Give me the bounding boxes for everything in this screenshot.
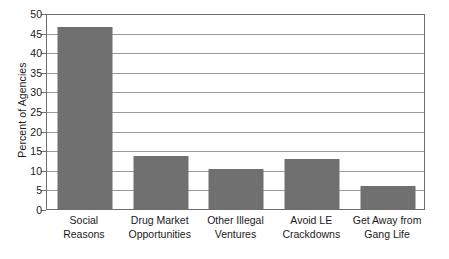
bar[interactable] <box>209 169 264 209</box>
y-axis-tick-label: 0 <box>20 204 42 217</box>
y-axis-tick-label: 5 <box>20 184 42 197</box>
y-axis-tick-label: 10 <box>20 165 42 178</box>
y-axis-tick-label: 20 <box>20 126 42 139</box>
y-axis-tick-label: 50 <box>20 8 42 21</box>
bar-slot <box>199 15 275 209</box>
x-axis-label-line: Other Illegal <box>198 213 274 227</box>
x-axis-label: Drug MarketOpportunities <box>122 213 198 241</box>
x-axis-label-line: Get Away from <box>349 213 425 227</box>
y-axis-tick-label: 35 <box>20 67 42 80</box>
x-axis-label: Avoid LECrackdowns <box>273 213 349 241</box>
x-axis-label-line: Avoid LE <box>273 213 349 227</box>
x-axis-category-labels: SocialReasonsDrug MarketOpportunitiesOth… <box>46 213 425 257</box>
x-axis-label-line: Reasons <box>46 227 122 241</box>
bar[interactable] <box>285 159 340 209</box>
bar-slot <box>47 15 123 209</box>
x-axis-label: SocialReasons <box>46 213 122 241</box>
x-axis-label-line: Opportunities <box>122 227 198 241</box>
x-axis-label: Other IllegalVentures <box>198 213 274 241</box>
y-axis-tick-label: 15 <box>20 145 42 158</box>
y-axis-tick-label: 45 <box>20 28 42 41</box>
x-axis-label-line: Drug Market <box>122 213 198 227</box>
bar-slot <box>274 15 350 209</box>
y-axis-tick-label: 30 <box>20 86 42 99</box>
x-axis-label: Get Away fromGang Life <box>349 213 425 241</box>
y-axis-tick-label: 40 <box>20 47 42 60</box>
y-axis-tick-label: 25 <box>20 106 42 119</box>
bar-slot <box>350 15 426 209</box>
x-axis-label-line: Gang Life <box>349 227 425 241</box>
x-axis-label-line: Social <box>46 213 122 227</box>
bar-slot <box>123 15 199 209</box>
y-axis-tick-labels: 05101520253035404550 <box>14 14 42 210</box>
plot-area <box>46 14 425 210</box>
x-axis-label-line: Ventures <box>198 227 274 241</box>
bar[interactable] <box>361 186 416 209</box>
bar[interactable] <box>57 27 112 209</box>
x-axis-label-line: Crackdowns <box>273 227 349 241</box>
bar-chart: Percent of Agencies 05101520253035404550… <box>0 0 449 259</box>
bar[interactable] <box>133 156 188 209</box>
